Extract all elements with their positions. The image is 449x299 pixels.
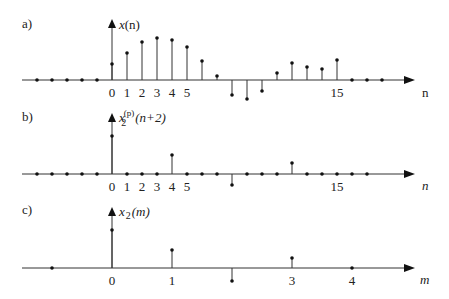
stem-marker <box>170 38 174 42</box>
panel-c-title: x2(m) <box>118 204 150 221</box>
stem-marker <box>35 78 39 82</box>
stem-marker <box>335 58 339 62</box>
stem-marker <box>200 59 204 63</box>
tick-label: 2 <box>139 85 146 100</box>
tick-label: 0 <box>109 179 116 194</box>
stem-marker <box>125 172 129 176</box>
tick-label: 1 <box>124 85 131 100</box>
tick-label: 15 <box>331 85 344 100</box>
stem-marker <box>320 67 324 71</box>
stem-marker <box>185 45 189 49</box>
panel-a-title: x(n) <box>118 17 140 32</box>
tick-label: 0 <box>109 273 116 288</box>
panel-label-a: a) <box>22 16 32 31</box>
tick-label: 1 <box>124 179 131 194</box>
stem-marker <box>305 172 309 176</box>
stem-marker <box>260 89 264 93</box>
tick-label: 4 <box>169 179 176 194</box>
y-axis-arrow-icon <box>108 207 116 216</box>
tick-label: 3 <box>154 179 161 194</box>
x-axis-arrow-icon <box>404 76 415 84</box>
stem-marker <box>35 172 39 176</box>
stem-marker <box>95 172 99 176</box>
stem-marker <box>110 134 114 138</box>
stem-marker <box>380 78 384 82</box>
panel-label-b: b) <box>22 109 33 124</box>
tick-label: 4 <box>169 85 176 100</box>
stem-marker <box>230 183 234 187</box>
stem-marker <box>215 172 219 176</box>
stem-plots: 01234515012345150134 <box>22 19 415 288</box>
stem-marker <box>185 172 189 176</box>
stem-marker <box>95 78 99 82</box>
stem-marker <box>50 266 54 270</box>
stem-marker <box>320 172 324 176</box>
panel-a-x-axis-label: n <box>422 85 429 100</box>
stem-marker <box>80 172 84 176</box>
stem-marker <box>290 256 294 260</box>
stem-marker <box>335 172 339 176</box>
stem-marker <box>155 36 159 40</box>
stem-marker <box>200 172 204 176</box>
stem-marker <box>290 161 294 165</box>
y-axis-arrow-icon <box>108 19 116 28</box>
stem-marker <box>350 266 354 270</box>
stem-marker <box>50 172 54 176</box>
panel-b-title: x(p)2(n+2) <box>118 108 166 128</box>
x-axis-arrow-icon <box>404 170 415 178</box>
stem-marker <box>215 74 219 78</box>
panel-b-x-axis-label: n <box>422 178 429 193</box>
panel-c-x-axis-label: m <box>420 272 429 287</box>
stem-marker <box>230 93 234 97</box>
y-axis-arrow-icon <box>108 113 116 122</box>
stem-marker <box>245 172 249 176</box>
stem-marker <box>125 51 129 55</box>
stem-plot-figure: a) b) c) x(n) x(p)2(n+2) x2(m) n n m 012… <box>0 0 449 299</box>
tick-label: 3 <box>154 85 161 100</box>
x-axis-arrow-icon <box>404 264 415 272</box>
tick-label: 0 <box>109 85 116 100</box>
tick-label: 15 <box>331 179 344 194</box>
stem-marker <box>275 71 279 75</box>
stem-marker <box>350 78 354 82</box>
stem-marker <box>65 78 69 82</box>
stem-marker <box>260 172 264 176</box>
stem-marker <box>365 78 369 82</box>
stem-marker <box>245 97 249 101</box>
stem-marker <box>110 228 114 232</box>
stem-marker <box>170 248 174 252</box>
stem-marker <box>305 65 309 69</box>
stem-marker <box>65 172 69 176</box>
stem-marker <box>155 172 159 176</box>
stem-marker <box>350 172 354 176</box>
tick-label: 5 <box>184 179 191 194</box>
stem-marker <box>230 279 234 283</box>
stem-marker <box>275 172 279 176</box>
stem-marker <box>50 78 54 82</box>
stem-marker <box>170 153 174 157</box>
tick-label: 5 <box>184 85 191 100</box>
stem-marker <box>140 172 144 176</box>
stem-marker <box>290 61 294 65</box>
stem-marker <box>80 78 84 82</box>
stem-marker <box>140 40 144 44</box>
panel-label-c: c) <box>22 202 32 217</box>
tick-label: 4 <box>349 273 356 288</box>
stem-marker <box>110 62 114 66</box>
tick-label: 3 <box>289 273 296 288</box>
tick-label: 1 <box>169 273 176 288</box>
stem-marker <box>365 172 369 176</box>
tick-label: 2 <box>139 179 146 194</box>
